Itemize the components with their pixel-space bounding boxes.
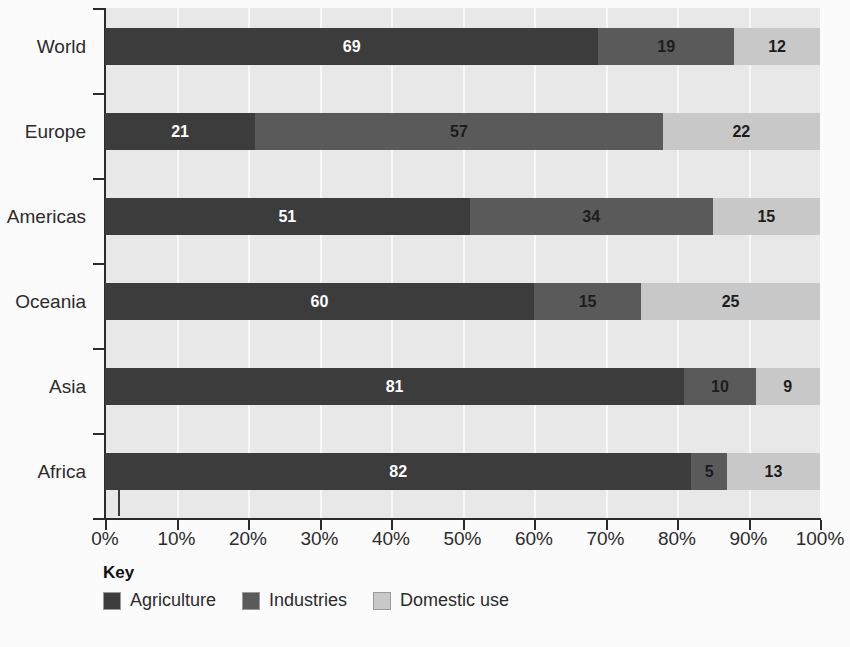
bar-segment-domestic-use[interactable]: 22 <box>663 113 820 150</box>
stacked-bar-world[interactable]: 691912 <box>105 28 820 65</box>
x-axis-tick-label: 70% <box>566 528 646 550</box>
x-axis-tick-label: 60% <box>494 528 574 550</box>
gridline <box>606 8 608 518</box>
y-axis-line <box>104 8 106 519</box>
bar-row: Europe215722 <box>0 113 850 150</box>
stacked-bar-europe[interactable]: 215722 <box>105 113 820 150</box>
bar-segment-industries[interactable]: 15 <box>534 283 641 320</box>
gridline <box>248 8 250 518</box>
bar-segment-agriculture[interactable]: 82 <box>105 453 691 490</box>
category-label-world: World <box>0 28 86 65</box>
x-axis-tick-label: 80% <box>637 528 717 550</box>
bar-segment-domestic-use[interactable]: 12 <box>734 28 820 65</box>
legend-swatch-icon <box>103 592 121 610</box>
bar-segment-agriculture[interactable]: 60 <box>105 283 534 320</box>
category-label-asia: Asia <box>0 368 86 405</box>
bar-segment-agriculture[interactable]: 51 <box>105 198 470 235</box>
x-axis-tick-label: 10% <box>137 528 217 550</box>
legend-item-label: Domestic use <box>400 590 509 611</box>
gridline <box>463 8 465 518</box>
legend-items: AgricultureIndustriesDomestic use <box>103 590 535 611</box>
bar-segment-domestic-use[interactable]: 13 <box>727 453 820 490</box>
bar-segment-domestic-use[interactable]: 15 <box>713 198 820 235</box>
gridline <box>677 8 679 518</box>
bar-segment-agriculture[interactable]: 21 <box>105 113 255 150</box>
bar-segment-industries[interactable]: 10 <box>684 368 756 405</box>
legend-swatch-icon <box>373 592 391 610</box>
y-axis-tick <box>93 93 104 95</box>
bar-row: Americas513415 <box>0 198 850 235</box>
legend-item-industries[interactable]: Industries <box>242 590 347 611</box>
y-axis-tick <box>93 518 104 520</box>
legend-swatch-icon <box>242 592 260 610</box>
bar-segment-agriculture[interactable]: 69 <box>105 28 598 65</box>
x-axis-tick-label: 0% <box>65 528 145 550</box>
bar-segment-industries[interactable]: 19 <box>598 28 734 65</box>
bar-segment-domestic-use[interactable]: 9 <box>756 368 820 405</box>
legend-title: Key <box>103 563 535 583</box>
x-axis-tick-label: 50% <box>423 528 503 550</box>
stacked-bar-americas[interactable]: 513415 <box>105 198 820 235</box>
stacked-bar-oceania[interactable]: 601525 <box>105 283 820 320</box>
bar-segment-industries[interactable]: 34 <box>470 198 713 235</box>
y-axis-tick <box>93 348 104 350</box>
gridline <box>749 8 751 518</box>
gridline <box>391 8 393 518</box>
legend-item-domestic-use[interactable]: Domestic use <box>373 590 509 611</box>
bar-row: Asia81109 <box>0 368 850 405</box>
x-axis-tick-label: 100% <box>780 528 850 550</box>
category-label-africa: Africa <box>0 453 86 490</box>
bar-row: Africa82513 <box>0 453 850 490</box>
y-axis-tick <box>93 8 104 10</box>
legend: Key AgricultureIndustriesDomestic use <box>103 563 535 611</box>
category-label-americas: Americas <box>0 198 86 235</box>
y-axis-tick <box>93 263 104 265</box>
gridline <box>534 8 536 518</box>
category-label-europe: Europe <box>0 113 86 150</box>
legend-item-label: Agriculture <box>130 590 216 611</box>
y-axis-tick <box>93 178 104 180</box>
gridline <box>177 8 179 518</box>
axis-origin-marker <box>118 490 120 516</box>
stacked-bar-chart: World691912Europe215722Americas513415Oce… <box>0 0 850 647</box>
bar-segment-industries[interactable]: 57 <box>255 113 663 150</box>
bar-row: Oceania601525 <box>0 283 850 320</box>
x-axis-tick-label: 40% <box>351 528 431 550</box>
legend-item-label: Industries <box>269 590 347 611</box>
bar-segment-industries[interactable]: 5 <box>691 453 727 490</box>
category-label-oceania: Oceania <box>0 283 86 320</box>
bar-segment-domestic-use[interactable]: 25 <box>641 283 820 320</box>
stacked-bar-asia[interactable]: 81109 <box>105 368 820 405</box>
stacked-bar-africa[interactable]: 82513 <box>105 453 820 490</box>
x-axis-tick-label: 90% <box>709 528 789 550</box>
x-axis-tick-label: 20% <box>208 528 288 550</box>
y-axis-tick <box>93 433 104 435</box>
gridline <box>320 8 322 518</box>
gridlines <box>105 8 820 518</box>
legend-item-agriculture[interactable]: Agriculture <box>103 590 216 611</box>
x-axis-tick-label: 30% <box>280 528 360 550</box>
bar-segment-agriculture[interactable]: 81 <box>105 368 684 405</box>
bar-row: World691912 <box>0 28 850 65</box>
plot-area <box>105 8 820 518</box>
